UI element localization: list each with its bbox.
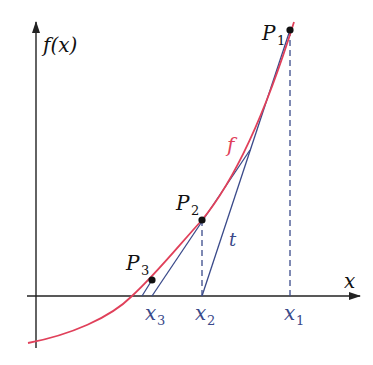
svg-text:P: P [261, 21, 276, 45]
point-p2 [198, 216, 205, 223]
point-p1 [286, 26, 293, 33]
tangent-label-t: t [229, 229, 237, 250]
tick-label-x2: x 2 [195, 301, 215, 328]
label-p3: P 3 [125, 251, 149, 278]
svg-text:P: P [125, 251, 140, 275]
curve-label-f: f [225, 133, 238, 157]
label-p1: P 1 [261, 21, 285, 48]
tick-label-x1: x 1 [284, 301, 304, 328]
curve-f [28, 22, 294, 343]
tangent-at-p1 [202, 30, 290, 296]
svg-text:x: x [145, 301, 156, 325]
svg-text:2: 2 [207, 313, 215, 328]
svg-text:1: 1 [277, 33, 285, 48]
svg-text:3: 3 [157, 313, 165, 328]
label-p2: P 2 [175, 191, 199, 218]
x-axis-label: x [344, 269, 355, 293]
svg-text:x: x [284, 301, 295, 325]
svg-text:3: 3 [141, 263, 149, 278]
svg-text:2: 2 [191, 203, 199, 218]
y-axis-label: f(x) [41, 33, 77, 57]
newton-method-diagram: f(x) x f t P 1 P 2 P 3 x 3 x 2 x 1 [0, 0, 373, 365]
tick-label-x3: x 3 [145, 301, 165, 328]
svg-text:1: 1 [296, 313, 304, 328]
svg-text:x: x [195, 301, 206, 325]
svg-text:P: P [175, 191, 190, 215]
point-p3 [148, 276, 155, 283]
